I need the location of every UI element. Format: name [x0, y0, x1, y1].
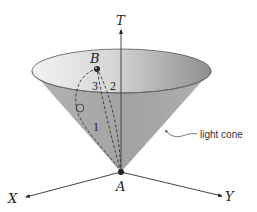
point-a-label: A	[115, 179, 125, 194]
point-b-label: B	[89, 51, 100, 66]
light-cone-label: light cone	[200, 129, 243, 140]
event-point-b	[94, 66, 100, 72]
y-axis-label: Y	[225, 189, 235, 204]
light-cone-leader	[165, 130, 197, 137]
light-cone-diagram: T B A X Y 3 2 1 light cone	[0, 0, 257, 212]
x-axis	[26, 172, 121, 197]
event-point-b-highlight	[95, 67, 97, 69]
path-1-label: 1	[93, 120, 99, 134]
path-2-label: 2	[110, 79, 116, 93]
t-axis-label: T	[116, 13, 126, 28]
x-axis-label: X	[7, 191, 18, 206]
y-axis	[121, 172, 222, 196]
path-3-label: 3	[92, 79, 98, 93]
event-point-a	[118, 169, 124, 175]
